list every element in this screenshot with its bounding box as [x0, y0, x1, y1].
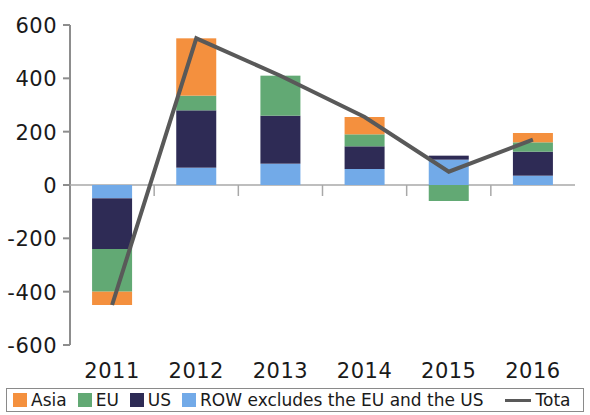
chart-container: 6004002000-200-400-600 20112012201320142… — [0, 0, 590, 415]
total-line-group — [112, 38, 533, 305]
legend-label: Asia — [31, 392, 67, 409]
legend-item: EU — [78, 392, 119, 409]
axis-group — [63, 25, 575, 345]
chart-legend: AsiaEUUSROW excludes the EU and the USTo… — [6, 388, 584, 412]
legend-item: Tota — [505, 392, 571, 409]
bar-segment — [92, 185, 132, 198]
bar-segment — [176, 110, 216, 167]
bar-segment — [176, 168, 216, 185]
y-tick-label: -600 — [7, 334, 57, 358]
legend-label: US — [148, 392, 171, 409]
bar-segment — [345, 134, 385, 146]
bar-segment — [260, 164, 300, 185]
legend-item: ROW excludes the EU and the US — [182, 392, 484, 409]
legend-color-swatch — [130, 393, 144, 407]
bar-segment — [429, 156, 469, 160]
bar-segment — [176, 96, 216, 111]
y-tick-label: 200 — [15, 121, 57, 145]
y-tick-label: 0 — [43, 174, 57, 198]
bar-segment — [345, 146, 385, 169]
bar-segment — [513, 176, 553, 185]
legend-label: ROW excludes the EU and the US — [200, 392, 484, 409]
x-axis-tick-labels: 201120122013201420152016 — [84, 359, 560, 383]
legend-line-marker — [505, 399, 531, 402]
y-tick-label: -200 — [7, 227, 57, 251]
y-tick-label: -400 — [7, 281, 57, 305]
legend-item: Asia — [13, 392, 67, 409]
legend-color-swatch — [13, 393, 27, 407]
legend-color-swatch — [182, 393, 196, 407]
stacked-bar-chart: 6004002000-200-400-600 20112012201320142… — [0, 0, 590, 415]
legend-item: US — [130, 392, 171, 409]
bar-segment — [429, 185, 469, 201]
bar-segment — [260, 116, 300, 164]
y-tick-label: 600 — [15, 14, 57, 38]
y-axis-tick-labels: 6004002000-200-400-600 — [7, 14, 57, 358]
x-tick-label: 2014 — [337, 359, 392, 383]
bar-segment — [345, 169, 385, 185]
x-tick-label: 2013 — [253, 359, 308, 383]
bar-segment — [92, 198, 132, 249]
x-tick-label: 2015 — [421, 359, 476, 383]
legend-label: EU — [96, 392, 119, 409]
bars-group — [92, 38, 553, 305]
x-tick-label: 2012 — [169, 359, 224, 383]
total-line — [112, 38, 533, 305]
x-tick-label: 2011 — [84, 359, 139, 383]
bar-segment — [513, 152, 553, 176]
y-tick-label: 400 — [15, 67, 57, 91]
legend-label: Tota — [536, 392, 571, 409]
legend-color-swatch — [78, 393, 92, 407]
x-tick-label: 2016 — [505, 359, 560, 383]
